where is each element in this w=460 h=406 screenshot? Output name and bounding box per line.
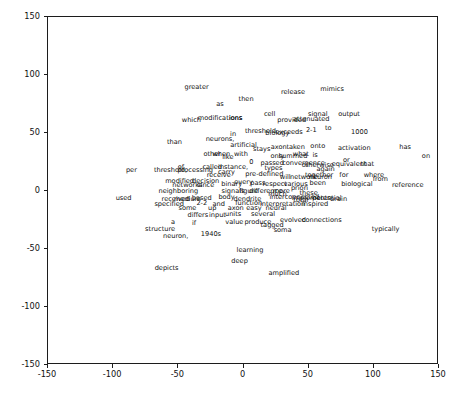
scatter-text-label: as bbox=[216, 101, 223, 108]
x-axis-tick-mark bbox=[243, 364, 244, 368]
x-axis-tick-mark bbox=[438, 364, 439, 368]
scatter-text-label: 2-2 bbox=[196, 199, 207, 206]
scatter-text-label: release bbox=[281, 89, 305, 96]
x-axis-tick-label: 100 bbox=[365, 369, 381, 379]
y-axis-tick-label: -50 bbox=[27, 243, 40, 253]
x-axis-tick-label: -50 bbox=[171, 369, 184, 379]
x-axis-tick-mark bbox=[47, 364, 48, 368]
scatter-text-label: amplified bbox=[269, 270, 300, 277]
scatter-text-label: on bbox=[422, 153, 430, 160]
scatter-text-label: greater bbox=[184, 83, 208, 90]
x-axis-tick-mark bbox=[373, 364, 374, 368]
scatter-text-label: used bbox=[116, 195, 132, 202]
scatter-text-label: mimics bbox=[320, 86, 344, 93]
scatter-text-label: is bbox=[313, 152, 318, 159]
plot-area: greaterthenreleasemimicsascellsignaloutp… bbox=[47, 16, 438, 364]
x-axis-tick-mark bbox=[112, 364, 113, 368]
scatter-text-label: axon bbox=[271, 144, 287, 151]
y-axis-tick-label: 50 bbox=[30, 127, 40, 137]
x-axis-tick-mark bbox=[308, 364, 309, 368]
scatter-text-label: for bbox=[339, 171, 348, 178]
scatter-text-label: pre-defined bbox=[245, 170, 283, 177]
scatter-text-label: connections bbox=[302, 217, 342, 224]
scatter-text-label: reference bbox=[392, 182, 423, 189]
scatter-text-label: onto bbox=[310, 142, 325, 149]
scatter-text-label: neuron, bbox=[163, 233, 188, 240]
scatter-text-label: stays bbox=[253, 146, 270, 153]
scatter-text-label: differs bbox=[187, 212, 208, 219]
x-axis-tick-label: 150 bbox=[430, 369, 446, 379]
scatter-text-label: ions bbox=[229, 115, 242, 122]
x-axis-tick-label: 0 bbox=[240, 369, 245, 379]
y-axis-tick-mark bbox=[44, 74, 48, 75]
figure-canvas: greaterthenreleasemimicsascellsignaloutp… bbox=[0, 0, 460, 406]
scatter-text-label: provided bbox=[277, 117, 306, 124]
y-axis-tick-label: -150 bbox=[21, 359, 40, 369]
x-axis-tick-label: -150 bbox=[38, 369, 57, 379]
y-axis-tick-label: 0 bbox=[35, 185, 40, 195]
y-axis-tick-mark bbox=[44, 190, 48, 191]
scatter-text-label: has bbox=[399, 144, 411, 151]
scatter-text-label: that bbox=[361, 161, 374, 168]
scatter-text-label: brain bbox=[330, 196, 347, 203]
scatter-text-label: value bbox=[225, 219, 243, 226]
y-axis-tick-label: 150 bbox=[24, 11, 40, 21]
scatter-text-label: inspired bbox=[302, 200, 328, 207]
scatter-text-label: 2-1 bbox=[306, 126, 317, 133]
scatter-text-label: since bbox=[197, 182, 214, 189]
x-axis-tick-label: -100 bbox=[103, 369, 122, 379]
scatter-text-label: typically bbox=[372, 226, 400, 233]
y-axis-tick-mark bbox=[44, 16, 48, 17]
scatter-text-label: soma bbox=[274, 227, 292, 234]
scatter-text-label: output bbox=[338, 111, 360, 118]
y-axis-tick-mark bbox=[44, 132, 48, 133]
scatter-text-label: then bbox=[239, 96, 254, 103]
scatter-text-label: per bbox=[126, 167, 137, 174]
scatter-text-label: than bbox=[167, 139, 182, 146]
y-axis-tick-mark bbox=[44, 364, 48, 365]
scatter-text-label: what bbox=[293, 151, 309, 158]
scatter-text-label: 1940s bbox=[201, 231, 221, 238]
y-axis-tick-mark bbox=[44, 306, 48, 307]
scatter-text-label: activation bbox=[338, 145, 371, 152]
y-axis-tick-mark bbox=[44, 248, 48, 249]
scatter-text-label: deep bbox=[231, 257, 247, 264]
scatter-text-label: input bbox=[209, 212, 226, 219]
scatter-text-label: from bbox=[373, 176, 388, 183]
scatter-text-label: to bbox=[325, 125, 332, 132]
scatter-text-label: learning bbox=[237, 247, 264, 254]
scatter-text-label: with bbox=[234, 151, 248, 158]
scatter-text-label: if bbox=[192, 220, 196, 227]
scatter-text-label: been bbox=[310, 180, 326, 187]
y-axis-tick-label: -100 bbox=[21, 301, 40, 311]
scatter-text-label: depicts bbox=[155, 264, 179, 271]
x-axis-tick-label: 50 bbox=[302, 369, 312, 379]
scatter-text-label: like bbox=[222, 154, 233, 161]
scatter-text-label: 1000 bbox=[351, 129, 368, 136]
scatter-text-label: several bbox=[251, 211, 275, 218]
y-axis-tick-label: 100 bbox=[24, 69, 40, 79]
scatter-text-label: biological bbox=[341, 181, 372, 188]
x-axis-tick-mark bbox=[177, 364, 178, 368]
scatter-text-label: cell bbox=[264, 111, 275, 118]
scatter-text-label: units bbox=[225, 211, 241, 218]
scatter-text-label: 0 bbox=[249, 159, 253, 166]
scatter-text-label: exceeds bbox=[276, 129, 303, 136]
